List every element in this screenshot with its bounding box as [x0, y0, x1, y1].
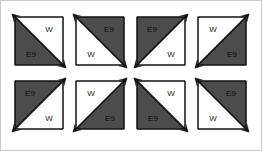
half-square-triangle-unit: E9W [192, 75, 254, 139]
unit-light-label: W [209, 114, 217, 123]
half-square-triangle-unit: E9W [9, 75, 71, 139]
half-square-triangle-unit: E9W [131, 75, 193, 139]
unit-light-label: W [87, 89, 95, 98]
half-square-triangle-unit: E9W [192, 11, 254, 75]
unit-dark-label: E9 [25, 89, 35, 98]
half-square-triangle-unit: E9W [9, 11, 71, 75]
half-square-triangle-unit: E9W [70, 11, 132, 75]
unit-light-label: W [209, 25, 217, 34]
half-square-triangle-grid: E9WE9WE9WE9WE9WE9WE9WE9W [1, 1, 262, 151]
unit-dark-label: E9 [26, 50, 36, 59]
unit-light-label: W [87, 50, 95, 59]
unit-light-label: W [167, 89, 175, 98]
unit-dark-label: E9 [226, 89, 236, 98]
unit-light-label: W [45, 25, 53, 34]
unit-dark-label: E9 [147, 25, 157, 34]
unit-dark-label: E9 [148, 114, 158, 123]
half-square-triangle-unit: E9W [131, 11, 193, 75]
diagram-canvas: E9WE9WE9WE9WE9WE9WE9WE9W [0, 0, 262, 151]
unit-dark-label: E9 [105, 114, 115, 123]
unit-dark-label: E9 [104, 25, 114, 34]
unit-light-label: W [45, 114, 53, 123]
unit-dark-label: E9 [227, 50, 237, 59]
half-square-triangle-unit: E9W [70, 75, 132, 139]
unit-light-label: W [167, 50, 175, 59]
